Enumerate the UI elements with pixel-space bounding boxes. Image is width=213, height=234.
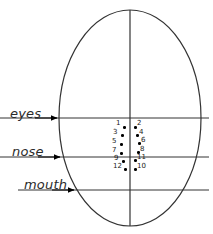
label-mouth: mouth <box>24 177 67 192</box>
landmark-number-7: 7 <box>112 147 116 154</box>
landmark-dot-12 <box>124 168 127 171</box>
landmark-number-12: 12 <box>113 163 122 170</box>
landmark-number-11: 11 <box>137 154 146 161</box>
landmark-number-4: 4 <box>139 129 143 136</box>
landmark-dot-1 <box>123 126 126 129</box>
landmark-number-6: 6 <box>141 137 145 144</box>
landmark-number-10: 10 <box>137 163 146 170</box>
landmark-dot-9 <box>122 160 125 163</box>
landmark-dot-3 <box>121 134 124 137</box>
landmark-dot-5 <box>120 143 123 146</box>
landmark-number-9: 9 <box>114 155 118 162</box>
label-eyes: eyes <box>10 106 41 121</box>
landmark-number-5: 5 <box>112 138 116 145</box>
face-landmark-diagram: eyesnosemouth 123456789101112 <box>0 0 213 234</box>
landmark-dot-7 <box>120 152 123 155</box>
landmark-number-1: 1 <box>116 120 120 127</box>
landmark-number-8: 8 <box>140 146 144 153</box>
landmark-number-2: 2 <box>137 120 141 127</box>
label-nose: nose <box>12 144 44 159</box>
landmark-number-3: 3 <box>113 129 117 136</box>
